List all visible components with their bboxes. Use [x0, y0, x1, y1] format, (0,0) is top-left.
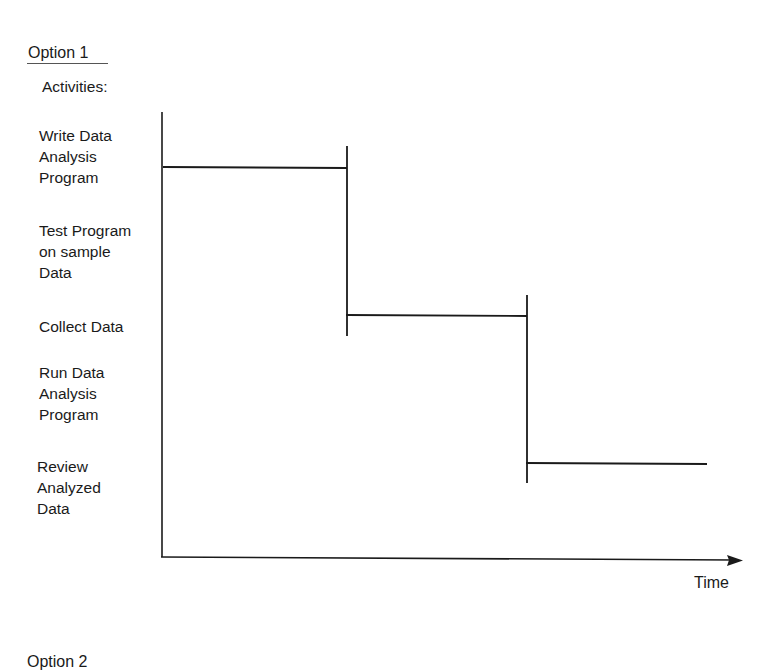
activity-bar — [346, 315, 527, 316]
x-axis — [161, 557, 734, 560]
option-2-heading: Option 2 — [27, 653, 87, 671]
activity-bars — [163, 146, 707, 483]
x-axis-arrowhead-icon — [727, 555, 743, 566]
activity-bar — [163, 167, 347, 168]
time-axis-label: Time — [694, 574, 729, 592]
activity-bar — [526, 463, 707, 464]
